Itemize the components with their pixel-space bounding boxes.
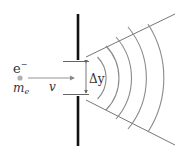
diffraction-diagram: e− me v Δy: [0, 0, 195, 157]
wavefront-arc: [116, 37, 131, 119]
cone-edge-bottom: [86, 100, 175, 145]
wavefront-arc: [128, 27, 146, 129]
slit-width-label: Δy: [89, 72, 105, 86]
wavefront-arc: [148, 24, 164, 132]
mass-label: me: [13, 81, 29, 96]
wavefronts: [98, 24, 164, 132]
electron-label: e−: [13, 60, 27, 76]
velocity-label: v: [49, 80, 56, 94]
wavefront-arc: [106, 46, 119, 110]
electron-dot: [17, 75, 22, 80]
cone-edge-top: [86, 14, 175, 57]
